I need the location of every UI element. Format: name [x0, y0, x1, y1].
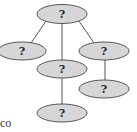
tree-diagram: ? ? ? ? ? ? [0, 0, 137, 132]
node-middle-child-label: ? [59, 63, 65, 76]
node-right-child: ? [79, 42, 129, 60]
node-right-grandchild-label: ? [101, 83, 107, 96]
node-left-child: ? [0, 42, 46, 60]
node-right-child-label: ? [101, 45, 107, 58]
node-root: ? [37, 5, 87, 24]
cutoff-text-fragment: co [0, 116, 11, 131]
node-right-grandchild: ? [79, 80, 129, 98]
node-root-label: ? [59, 8, 65, 21]
node-middle-grandchild-label: ? [59, 107, 65, 120]
node-left-child-label: ? [19, 45, 25, 58]
edge-root-right [79, 21, 94, 43]
node-middle-grandchild: ? [37, 104, 87, 122]
edge-root-left [31, 21, 46, 43]
node-middle-child: ? [37, 60, 87, 78]
